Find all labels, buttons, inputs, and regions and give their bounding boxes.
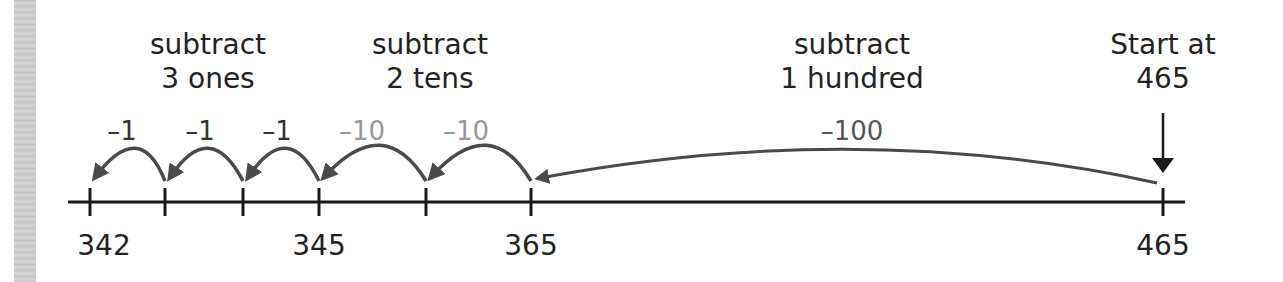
step-label: –100	[821, 116, 884, 146]
hop-ones-2	[171, 148, 243, 181]
group-label-ones: subtract 3 ones	[150, 28, 266, 96]
tick-label: 345	[292, 230, 345, 262]
tick-label: 465	[1136, 230, 1189, 262]
step-label: –10	[339, 116, 385, 146]
step-label: –10	[443, 116, 489, 146]
start-arrow	[1152, 113, 1174, 173]
hop-ones-1	[96, 148, 165, 181]
hop-hundred	[540, 149, 1157, 183]
hop-tens-2	[432, 145, 531, 181]
tick-label: 342	[77, 230, 130, 262]
step-label: –1	[185, 116, 215, 146]
group-label-hundred: subtract 1 hundred	[780, 28, 924, 96]
group-label-tens: subtract 2 tens	[372, 28, 488, 96]
hop-arrows	[96, 145, 1157, 183]
start-label: Start at 465	[1110, 28, 1215, 96]
hop-ones-3	[249, 148, 319, 181]
tick-label: 365	[504, 230, 557, 262]
hop-tens-1	[325, 145, 426, 181]
step-label: –1	[107, 116, 137, 146]
step-label: –1	[262, 116, 292, 146]
